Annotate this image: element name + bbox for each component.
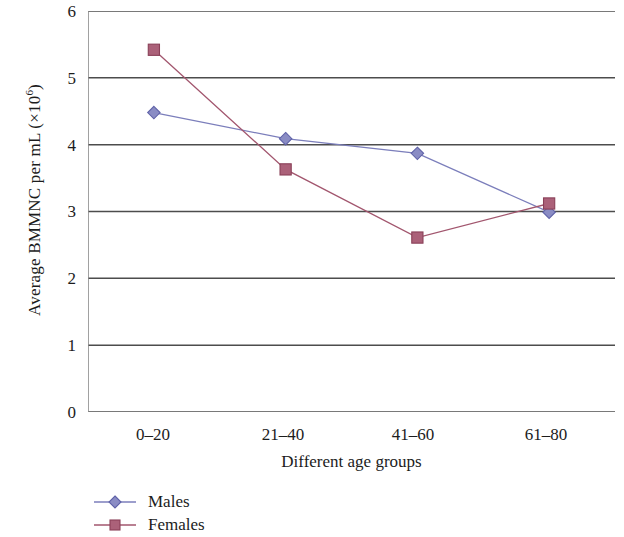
legend-marker-square-icon xyxy=(92,517,138,533)
y-tick-label: 2 xyxy=(52,270,76,287)
data-point xyxy=(148,106,160,118)
legend-label-males: Males xyxy=(148,492,190,512)
series-line xyxy=(154,113,549,213)
series-females xyxy=(148,44,554,243)
data-point xyxy=(280,164,291,175)
y-tick-label: 1 xyxy=(52,337,76,354)
legend-item-females: Females xyxy=(92,513,322,536)
x-tick-label: 21–40 xyxy=(228,425,338,445)
y-tick-label: 6 xyxy=(52,3,76,20)
y-tick-label: 4 xyxy=(52,137,76,154)
y-tick-label: 3 xyxy=(52,203,76,220)
data-series-layer xyxy=(148,44,556,243)
data-point xyxy=(412,232,423,243)
legend-marker-diamond-icon xyxy=(92,494,138,510)
data-point xyxy=(148,44,159,55)
legend-item-males: Males xyxy=(92,490,322,513)
data-point xyxy=(544,198,555,209)
y-axis-tick-labels: 6 5 4 3 2 1 0 xyxy=(36,0,76,440)
x-tick-label: 61–80 xyxy=(491,425,601,445)
x-axis-tick-labels: 0–20 21–40 41–60 61–80 xyxy=(88,425,615,451)
plot-svg xyxy=(88,11,615,412)
y-axis-title-exponent: 6 xyxy=(23,90,35,96)
y-tick-label: 0 xyxy=(52,404,76,421)
y-tick-label: 5 xyxy=(52,70,76,87)
series-males xyxy=(148,106,556,218)
chart-legend: Males Females xyxy=(92,490,322,536)
line-chart: Average BMMNC per mL (×106) 6 5 4 3 2 1 … xyxy=(0,0,624,537)
data-point xyxy=(411,147,423,159)
x-tick-label: 41–60 xyxy=(358,425,468,445)
x-tick-label: 0–20 xyxy=(98,425,208,445)
plot-area xyxy=(88,11,615,412)
x-axis-title: Different age groups xyxy=(88,452,615,472)
data-point xyxy=(279,132,291,144)
legend-label-females: Females xyxy=(148,515,205,535)
